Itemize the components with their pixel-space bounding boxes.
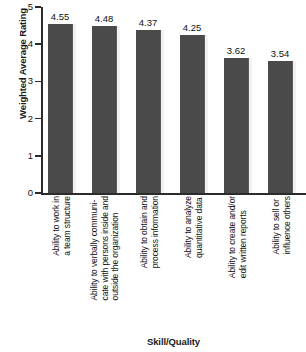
x-axis-category-label: Ability to sell orinfluence others <box>262 196 300 332</box>
bar <box>268 61 296 193</box>
bar-value-label: 4.37 <box>126 18 170 28</box>
x-axis-category-label-line: Ability to create and/or <box>227 196 238 278</box>
x-axis-category-label-text: Ability to verbally communi-cate with pe… <box>89 196 121 300</box>
x-axis-category-label: Ability to obtain andprocess information <box>130 196 168 332</box>
bar-group: 4.37 <box>130 7 168 193</box>
bar-group: 4.48 <box>86 7 124 193</box>
x-axis-category-label-text: Ability to create and/oredit written rep… <box>227 196 248 278</box>
x-axis-category-label-line: quantitative data <box>193 196 204 258</box>
y-axis-tick-label: 0 <box>20 188 33 198</box>
x-axis-category-label: Ability to work ina team structure <box>42 196 80 332</box>
x-axis-category-label-line: outside the organization <box>110 196 121 300</box>
y-axis-tick-label: 5 <box>20 2 33 12</box>
y-axis-tick-mark <box>35 6 41 8</box>
x-axis-category-label-line: influence others <box>281 196 292 254</box>
x-axis-category-label: Ability to verbally communi-cate with pe… <box>86 196 124 332</box>
x-axis-category-label-line: a team structure <box>61 196 72 256</box>
x-axis-category-labels: Ability to work ina team structureAbilit… <box>42 196 306 336</box>
x-axis-title: Skill/Quality <box>41 336 306 347</box>
y-axis-tick-label: 1 <box>20 151 33 161</box>
x-axis-category-label-line: Ability to analyze <box>183 196 194 258</box>
y-axis-tick-mark <box>35 81 41 83</box>
bar-group: 4.55 <box>42 7 80 193</box>
bar <box>136 30 164 193</box>
bar <box>48 24 76 193</box>
x-axis-line <box>41 193 306 195</box>
x-axis-category-label-text: Ability to obtain andprocess information <box>139 196 160 268</box>
bar-value-label: 3.54 <box>258 49 302 59</box>
y-axis-tick-mark <box>35 192 41 194</box>
bar <box>180 35 208 193</box>
y-axis-tick-mark <box>35 43 41 45</box>
x-axis-category-label-line: Ability to verbally communi- <box>89 196 100 300</box>
bar-value-label: 4.48 <box>82 14 126 24</box>
x-axis-category-label-line: cate with persons inside and <box>100 196 111 300</box>
x-axis-category-label: Ability to create and/oredit written rep… <box>218 196 256 332</box>
y-axis-tick-label: 3 <box>20 76 33 86</box>
x-axis-category-label-line: edit written reports <box>237 196 248 278</box>
y-axis-tick-mark <box>35 155 41 157</box>
y-axis-tick-label: 2 <box>20 114 33 124</box>
x-axis-category-label-line: Ability to sell or <box>271 196 282 254</box>
x-axis-category-label-text: Ability to sell orinfluence others <box>271 196 292 254</box>
y-axis-tick-label: 4 <box>20 39 33 49</box>
plot-area: 4.554.484.374.253.623.54 <box>42 7 306 193</box>
bar <box>92 26 120 193</box>
bar-value-label: 4.25 <box>170 23 214 33</box>
x-axis-category-label-line: process information <box>149 196 160 268</box>
x-axis-category-label-text: Ability to work ina team structure <box>51 196 72 256</box>
bar-value-label: 3.62 <box>214 46 258 56</box>
x-axis-category-label-text: Ability to analyzequantitative data <box>183 196 204 258</box>
x-axis-category-label: Ability to analyzequantitative data <box>174 196 212 332</box>
bar-chart: Weighted Average Rating 012345 4.554.484… <box>0 0 306 352</box>
y-axis-tick-mark <box>35 118 41 120</box>
bar-group: 3.54 <box>262 7 300 193</box>
bar-group: 4.25 <box>174 7 212 193</box>
bar-group: 3.62 <box>218 7 256 193</box>
bar-value-label: 4.55 <box>38 12 82 22</box>
x-axis-category-label-line: Ability to work in <box>51 196 62 256</box>
x-axis-category-label-line: Ability to obtain and <box>139 196 150 268</box>
bar <box>224 58 252 193</box>
